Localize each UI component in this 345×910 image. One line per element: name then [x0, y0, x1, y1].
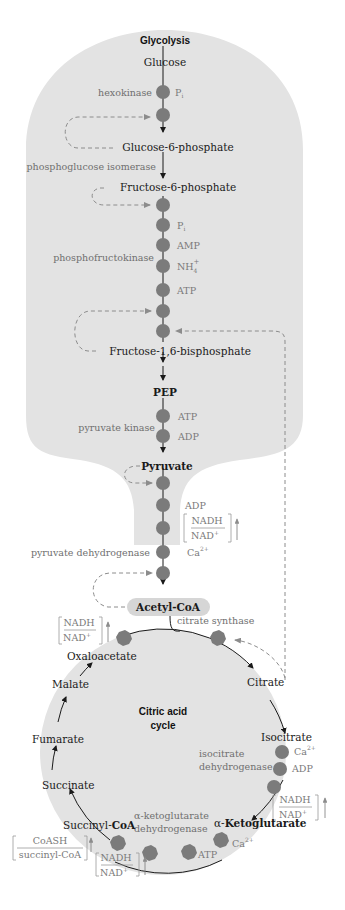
- svg-text:NAD+: NAD+: [191, 529, 219, 541]
- pfk-dot-4: [156, 259, 170, 273]
- effector-pdh-adp: ADP: [184, 500, 206, 511]
- effector-cs-nadh-ratio: NADH NAD+: [59, 617, 108, 644]
- metabolite-g6p: Glucose-6-phosphate: [122, 141, 233, 153]
- enzyme-pdh: pyruvate dehydrogenase: [31, 547, 150, 558]
- metabolite-fumarate: Fumarate: [32, 733, 84, 745]
- effector-akgdh-atp: ATP: [197, 849, 218, 860]
- metabolite-glucose: Glucose: [144, 56, 186, 68]
- pdh-dot-4: [156, 545, 170, 559]
- pfk-dot-6: [156, 304, 170, 318]
- svg-text:NADH: NADH: [279, 794, 310, 805]
- enzyme-pk: pyruvate kinase: [78, 422, 155, 433]
- effector-pdh-ca: Ca2+: [187, 545, 209, 558]
- pfk-dot-1: [156, 198, 170, 212]
- svg-text:NADH: NADH: [191, 515, 222, 526]
- enzyme-pfk: phosphofructokinase: [53, 252, 154, 263]
- hexokinase-dot-1: [156, 85, 170, 99]
- effector-idh-adp: ADP: [291, 763, 313, 774]
- effector-pfk-atp: ATP: [176, 285, 197, 296]
- pdh-dot-5: [156, 566, 170, 580]
- metabolite-akg: α-Ketoglutarate: [214, 817, 307, 829]
- enzyme-pgi: phosphoglucose isomerase: [27, 161, 157, 172]
- svg-text:CoASH: CoASH: [33, 835, 68, 846]
- tca-title-line1: Citric acid: [139, 706, 187, 717]
- metabolite-malate: Malate: [52, 678, 89, 690]
- enzyme-idh-line2: dehydrogenase: [199, 761, 273, 772]
- metabolite-oxaloacetate: Oxaloacetate: [67, 650, 137, 662]
- svg-text:NAD+: NAD+: [63, 631, 91, 643]
- pfk-dot-2: [156, 218, 170, 232]
- metabolite-succinyl-coa: Succinyl-CoA: [63, 819, 136, 831]
- svg-text:NADH: NADH: [63, 617, 94, 628]
- idh-dot-2: [273, 762, 287, 776]
- effector-pk-atp: ATP: [177, 411, 198, 422]
- enzyme-hexokinase: hexokinase: [98, 87, 152, 98]
- metabolite-f6p: Fructose-6-phosphate: [120, 181, 236, 193]
- glycolysis-title: Glycolysis: [140, 35, 190, 46]
- pfk-dot-7: [156, 324, 170, 338]
- metabolite-pep: PEP: [153, 386, 177, 398]
- enzyme-idh-line1: isocitrate: [199, 748, 245, 759]
- metabolite-pyruvate: Pyruvate: [141, 460, 193, 472]
- pfk-dot-3: [156, 238, 170, 252]
- pdh-dot-1: [156, 476, 170, 490]
- metabolite-isocitrate: Isocitrate: [261, 731, 312, 743]
- effector-akgdh-ca: Ca2+: [232, 836, 254, 849]
- svg-text:NADH: NADH: [100, 852, 131, 863]
- pdh-dot-3: [156, 521, 170, 535]
- effector-pk-adp: ADP: [177, 431, 199, 442]
- pdh-dot-2: [156, 498, 170, 512]
- effector-pfk-amp: AMP: [176, 240, 201, 251]
- glycolysis-tca-regulation-diagram: Glycolysis Glucose hexokinase Pi Glucose…: [0, 0, 345, 910]
- enzyme-akgdh-line1: α-ketoglutarate: [134, 810, 209, 821]
- metabolite-f16bp: Fructose-1,6-bisphosphate: [109, 345, 251, 357]
- metabolite-citrate: Citrate: [247, 676, 284, 688]
- enzyme-akgdh-line2: dehydrogenase: [134, 823, 208, 834]
- hexokinase-dot-2: [156, 108, 170, 122]
- svg-text:succinyl-CoA: succinyl-CoA: [19, 849, 81, 860]
- effector-pdh-nadh-ratio: NADH NAD+: [184, 514, 237, 542]
- tca-title-line2: cycle: [150, 720, 175, 731]
- pk-dot-1: [156, 409, 170, 423]
- pfk-dot-5: [156, 283, 170, 297]
- metabolite-succinate: Succinate: [42, 779, 95, 791]
- effector-idh-ca: Ca2+: [294, 744, 316, 757]
- metabolite-acetyl-coa: Acetyl-CoA: [135, 601, 201, 613]
- idh-dot-1: [275, 745, 289, 759]
- enzyme-citrate-synthase: citrate synthase: [177, 615, 255, 626]
- svg-text:NAD+: NAD+: [100, 866, 128, 878]
- idh-dot-3: [267, 780, 281, 794]
- pk-dot-2: [156, 429, 170, 443]
